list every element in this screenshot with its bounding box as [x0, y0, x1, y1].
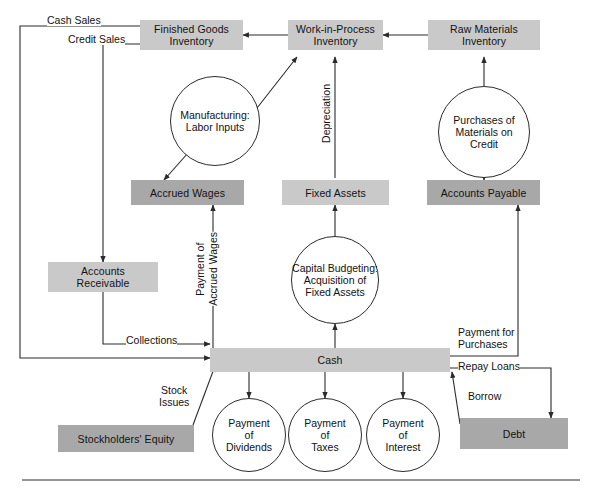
- node-purchases-of-materials-on-credit: Purchases of Materials on Credit: [438, 86, 530, 178]
- node-label: Payment of Dividends: [226, 417, 272, 453]
- node-label: Work-in-Process Inventory: [296, 23, 375, 47]
- edge-label-payment-of-accrued-wages: Payment of Accrued Wages: [194, 232, 220, 306]
- edge-stock-issues: [193, 366, 215, 425]
- node-debt: Debt: [460, 418, 568, 449]
- edge-borrow: [452, 372, 460, 424]
- node-label: Accrued Wages: [150, 187, 225, 199]
- node-finished-goods-inventory: Finished Goods Inventory: [140, 20, 243, 50]
- node-label: Capital Budgeting: Acquisition of Fixed …: [292, 262, 378, 298]
- node-work-in-process-inventory: Work-in-Process Inventory: [288, 20, 383, 50]
- node-label: Purchases of Materials on Credit: [453, 114, 514, 150]
- node-label: Payment of Taxes: [304, 417, 345, 453]
- edge-label-repay-loans: Repay Loans: [458, 360, 520, 372]
- node-payment-of-dividends: Payment of Dividends: [212, 398, 286, 472]
- node-payment-of-taxes: Payment of Taxes: [288, 398, 362, 472]
- edge-label-payment-for-purchases: Payment for Purchases: [458, 326, 515, 350]
- node-label: Stockholders' Equity: [78, 433, 175, 445]
- node-accounts-receivable: Accounts Receivable: [48, 262, 158, 292]
- flowchart-canvas: Finished Goods Inventory Work-in-Process…: [0, 0, 601, 490]
- edge-label-cash-sales: Cash Sales: [47, 14, 101, 26]
- node-payment-of-interest: Payment of Interest: [366, 398, 440, 472]
- node-cash: Cash: [210, 348, 450, 372]
- edge-label-borrow: Borrow: [468, 390, 501, 402]
- node-label: Cash: [318, 354, 343, 366]
- node-raw-materials-inventory: Raw Materials Inventory: [428, 20, 540, 50]
- node-accounts-payable: Accounts Payable: [427, 180, 540, 205]
- edge-label-stock-issues: Stock Issues: [159, 384, 189, 408]
- edge-label-depreciation: Depreciation: [320, 84, 332, 143]
- node-label: Raw Materials Inventory: [450, 23, 518, 47]
- edge-label-collections: Collections: [126, 334, 177, 346]
- edge-credit-sales: [103, 44, 140, 262]
- node-label: Accounts Receivable: [77, 265, 130, 289]
- node-capital-budgeting: Capital Budgeting: Acquisition of Fixed …: [291, 236, 379, 324]
- node-accrued-wages: Accrued Wages: [131, 180, 244, 205]
- node-fixed-assets: Fixed Assets: [282, 180, 389, 205]
- node-label: Accounts Payable: [441, 187, 527, 199]
- node-label: Debt: [503, 428, 526, 440]
- node-label: Payment of Interest: [382, 417, 423, 453]
- node-manufacturing-labor-inputs: Manufacturing: Labor Inputs: [170, 76, 260, 166]
- node-label: Manufacturing: Labor Inputs: [180, 109, 249, 133]
- edge-manufacturing-to-wip: [257, 57, 297, 108]
- node-label: Finished Goods Inventory: [154, 23, 229, 47]
- node-stockholders-equity: Stockholders' Equity: [58, 425, 194, 452]
- edge-label-credit-sales: Credit Sales: [68, 33, 125, 45]
- node-label: Fixed Assets: [305, 187, 366, 199]
